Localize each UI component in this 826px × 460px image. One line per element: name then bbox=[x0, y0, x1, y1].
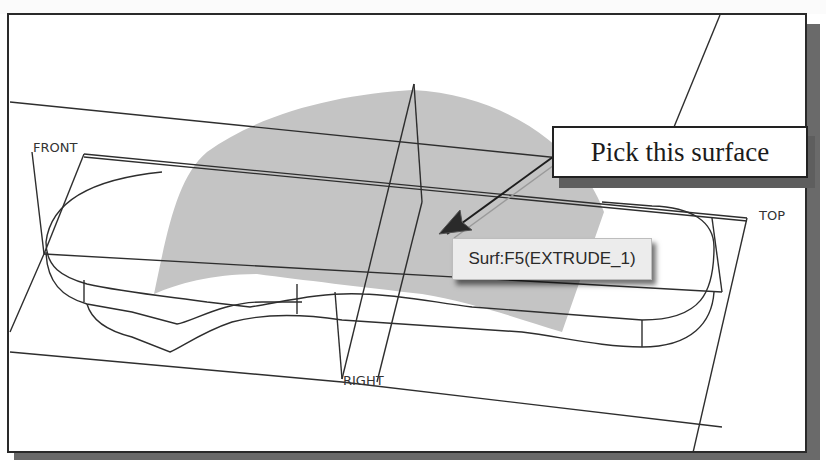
part-bottom-outline bbox=[87, 292, 714, 352]
front-plane-edge bbox=[10, 152, 44, 332]
right-plane-edge bbox=[335, 292, 342, 379]
right-plane-edge bbox=[674, 15, 720, 127]
model-scene[interactable] bbox=[9, 15, 805, 451]
datum-label-top[interactable]: TOP bbox=[759, 209, 785, 222]
front-plane-edge bbox=[44, 154, 84, 254]
selection-tooltip: Surf:F5(EXTRUDE_1) bbox=[452, 238, 652, 280]
page-margin bbox=[0, 0, 826, 14]
datum-label-right[interactable]: RIGHT bbox=[343, 374, 384, 387]
top-plane-edge bbox=[692, 218, 747, 451]
graphics-viewport[interactable]: FRONT TOP RIGHT bbox=[7, 13, 807, 453]
datum-label-front[interactable]: FRONT bbox=[33, 141, 77, 154]
highlighted-surface[interactable] bbox=[154, 90, 604, 332]
instruction-callout: Pick this surface bbox=[552, 126, 808, 178]
datum-plane-edge bbox=[10, 352, 722, 427]
